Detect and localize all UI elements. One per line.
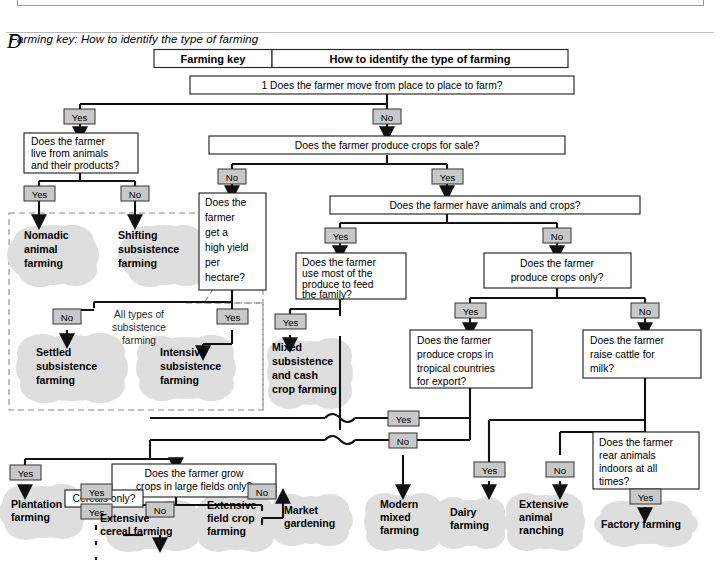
yn-q6-yes[interactable]: Yes bbox=[275, 314, 306, 329]
yn-q4-yes[interactable]: Yes bbox=[217, 309, 248, 324]
yn-label: Yes bbox=[89, 487, 105, 498]
note-line-3: farming bbox=[122, 335, 156, 346]
outcome-line: subsistence bbox=[272, 355, 333, 367]
q12-line-1: Does the farmer bbox=[599, 437, 673, 448]
yn-q2-no[interactable]: No bbox=[121, 186, 149, 201]
yn-label: Yes bbox=[283, 317, 299, 328]
outcome-line: Factory farming bbox=[601, 518, 681, 530]
outcome-line: Settled bbox=[36, 346, 71, 358]
yn-label: No bbox=[256, 487, 268, 498]
yn-q12-no[interactable]: No bbox=[546, 462, 574, 477]
outcome-line: farming bbox=[11, 511, 50, 523]
yn-q10-no[interactable]: No bbox=[248, 484, 276, 499]
question-box-q3[interactable]: Does the farmer produce crops for sale? bbox=[209, 136, 565, 154]
yn-q4-no[interactable]: No bbox=[53, 309, 81, 324]
yn-label: Yes bbox=[463, 306, 479, 317]
q7-line-2: produce crops only? bbox=[511, 272, 604, 283]
yn-q7-yes[interactable]: Yes bbox=[455, 303, 486, 318]
farming-key-flowchart: Farming key How to identify the type of … bbox=[0, 0, 720, 565]
outcome-line: and cash bbox=[272, 369, 318, 381]
q6-line-2: use most of the bbox=[302, 268, 373, 279]
outcome-line: farming bbox=[24, 257, 63, 269]
yn-label: No bbox=[226, 172, 238, 183]
yn-q1-no[interactable]: No bbox=[373, 109, 401, 124]
outcome-line: subsistence bbox=[36, 360, 97, 372]
yn-q8-yes[interactable]: Yes bbox=[388, 411, 419, 426]
outcome-line: animal bbox=[519, 511, 553, 523]
yn-label: Yes bbox=[396, 414, 412, 425]
yn-label: No bbox=[639, 306, 651, 317]
q4-line-4: high yield bbox=[205, 242, 249, 253]
yn-q3-yes[interactable]: Yes bbox=[432, 169, 463, 184]
question-box-q8[interactable]: Does the farmer produce crops in tropica… bbox=[410, 330, 532, 388]
q2-line-3: and their products? bbox=[31, 160, 119, 171]
question-boxes: 1 Does the farmer move from place to pla… bbox=[24, 76, 701, 507]
yn-q12-yes[interactable]: Yes bbox=[630, 489, 661, 504]
q4-line-5: per bbox=[205, 257, 220, 268]
q12-line-3: indoors at all bbox=[599, 463, 657, 474]
q2-line-2: live from animals bbox=[31, 148, 108, 159]
outcome-line: cereal farming bbox=[100, 525, 172, 537]
yn-q11-no[interactable]: No bbox=[146, 502, 174, 517]
outcome-line: Extensive bbox=[207, 499, 257, 511]
outcome-line: Shifting bbox=[118, 229, 157, 241]
q8-line-1: Does the farmer bbox=[417, 335, 491, 346]
outcome-line: subsistence bbox=[160, 360, 221, 372]
outcome-line: ranching bbox=[519, 524, 564, 536]
yn-q2-yes[interactable]: Yes bbox=[24, 186, 55, 201]
q4-line-1: Does the bbox=[205, 197, 246, 208]
note-line-1: All types of bbox=[114, 309, 164, 320]
q10-line-1: Does the farmer grow bbox=[144, 468, 244, 479]
yn-label: No bbox=[381, 112, 393, 123]
yn-q5-no[interactable]: No bbox=[543, 228, 571, 243]
outcome-line: Nomadic bbox=[24, 229, 69, 241]
yn-label: No bbox=[129, 189, 141, 200]
q7-line-1: Does the farmer bbox=[520, 258, 594, 269]
q9-line-2: raise cattle for bbox=[590, 349, 655, 360]
outcome-line: farming bbox=[450, 519, 489, 531]
yn-q3-no[interactable]: No bbox=[218, 169, 246, 184]
yn-label: Yes bbox=[638, 492, 654, 503]
question-box-q6[interactable]: Does the farmer use most of the produce … bbox=[296, 253, 406, 300]
yn-label: No bbox=[154, 505, 166, 516]
outcome-line: Intensive bbox=[160, 346, 206, 358]
outcome-line: animal bbox=[24, 243, 58, 255]
q2-line-1: Does the farmer bbox=[31, 136, 105, 147]
yn-q8-no[interactable]: No bbox=[389, 433, 417, 448]
yn-q1-yes[interactable]: Yes bbox=[64, 109, 95, 124]
question-box-q2[interactable]: Does the farmer live from animals and th… bbox=[24, 133, 138, 173]
q9-line-1: Does the farmer bbox=[590, 335, 664, 346]
yn-q7-no[interactable]: No bbox=[631, 303, 659, 318]
yn-label: Yes bbox=[32, 189, 48, 200]
question-box-q12[interactable]: Does the farmer rear animals indoors at … bbox=[593, 432, 699, 489]
outcome-line: farming bbox=[118, 257, 157, 269]
q6-line-4: the family? bbox=[302, 289, 352, 300]
outcome-line: Mixed bbox=[272, 341, 302, 353]
outcome-line: farming bbox=[380, 524, 419, 536]
q9-line-3: milk? bbox=[590, 363, 614, 374]
question-box-q9[interactable]: Does the farmer raise cattle for milk? bbox=[583, 330, 701, 378]
outcome-line: Modern bbox=[380, 498, 418, 510]
yn-plantation-yes[interactable]: Yes bbox=[10, 465, 41, 480]
question-box-q5[interactable]: Does the farmer have animals and crops? bbox=[330, 196, 640, 214]
outcome-line: farming bbox=[160, 374, 199, 386]
key-header-table: Farming key How to identify the type of … bbox=[154, 50, 568, 68]
yn-q10-yes[interactable]: Yes bbox=[81, 484, 112, 499]
yn-q9-yes[interactable]: Yes bbox=[474, 462, 505, 477]
q12-line-2: rear animals bbox=[599, 450, 656, 461]
outcome-line: Market bbox=[284, 504, 319, 516]
outcome-line: gardening bbox=[284, 517, 335, 529]
q4-line-2: farmer bbox=[205, 212, 235, 223]
outcome-line: mixed bbox=[380, 511, 411, 523]
q8-line-3: tropical countries bbox=[417, 363, 495, 374]
outcome-line: crop farming bbox=[272, 383, 337, 395]
note-line-2: subsistence bbox=[112, 322, 166, 333]
yn-label: Yes bbox=[440, 172, 456, 183]
question-box-q1[interactable]: 1 Does the farmer move from place to pla… bbox=[190, 76, 574, 94]
question-box-q7[interactable]: Does the farmer produce crops only? bbox=[484, 253, 631, 288]
q10-line-2: crops in large fields only? bbox=[136, 481, 252, 492]
yn-label: No bbox=[61, 312, 73, 323]
yn-q5-yes[interactable]: Yes bbox=[325, 228, 356, 243]
question-box-q4[interactable]: Does the farmer get a high yield per hec… bbox=[199, 193, 266, 290]
yn-label: Yes bbox=[482, 465, 498, 476]
